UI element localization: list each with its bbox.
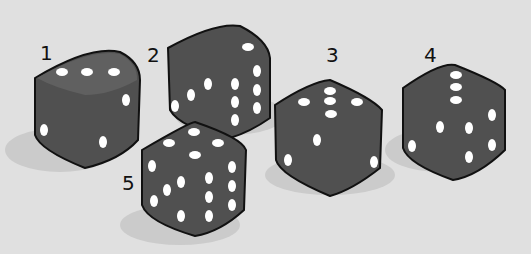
die-label-5: 5 [122,171,135,195]
die-4 [403,65,505,180]
die-5 [142,122,246,236]
dice-diagram: 1 2 3 4 5 [0,0,531,254]
die-label-1: 1 [40,41,53,65]
die-2 [168,25,270,138]
die-label-3: 3 [326,43,339,67]
die-label-4: 4 [424,43,437,67]
die-1 [35,51,140,168]
die-label-2: 2 [147,43,160,67]
